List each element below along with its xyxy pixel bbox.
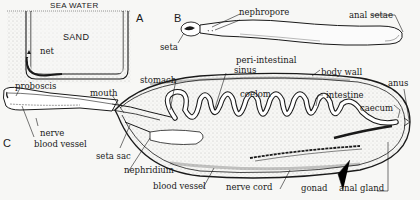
label-anal-setae: anal setae: [349, 11, 393, 20]
label-seta-sac: seta sac: [96, 152, 131, 161]
label-blood-vessel-proboscis: blood vessel: [34, 140, 87, 149]
label-stomach: stomach: [140, 76, 176, 85]
label-caecum: caecum: [360, 104, 393, 113]
label-nerve-cord: nerve cord: [226, 183, 272, 192]
label-anus: anus: [388, 79, 408, 88]
label-net: net: [40, 47, 54, 56]
panel-label-a: A: [136, 12, 143, 24]
label-body-wall: body wall: [321, 68, 362, 77]
label-sinus: sinus: [234, 66, 256, 75]
label-peri-intestinal: peri-intestinal: [236, 56, 297, 65]
label-blood-vessel: blood vessel: [153, 182, 206, 191]
echiuroid-diagram: [0, 0, 420, 200]
label-seta: seta: [160, 43, 178, 52]
panel-a-burrow: [7, 11, 131, 83]
label-mouth: mouth: [90, 89, 118, 98]
label-sand: SAND: [63, 33, 89, 42]
label-intestine: intestine: [326, 91, 364, 100]
label-proboscis: proboscis: [15, 82, 56, 91]
label-nephropore: nephropore: [239, 8, 289, 17]
label-gonad: gonad: [301, 184, 328, 193]
label-nerve: nerve: [40, 129, 64, 138]
panel-label-b: B: [174, 12, 181, 24]
label-coelom: coelom: [240, 90, 271, 99]
label-sea-water: SEA WATER: [50, 2, 99, 10]
label-anal-gland: anal gland: [339, 184, 384, 193]
label-nephridium: nephridium: [124, 166, 174, 175]
panel-label-c: C: [3, 137, 11, 149]
